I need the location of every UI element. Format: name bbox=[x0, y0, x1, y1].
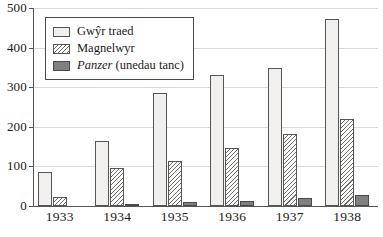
legend-label: Gwŷr traed bbox=[77, 24, 134, 39]
y-tick-label: 500 bbox=[7, 0, 27, 16]
x-tick-label: 1933 bbox=[46, 209, 74, 225]
bar-panzer-1934 bbox=[125, 204, 139, 206]
x-axis-labels: 193319341935193619371938 bbox=[33, 209, 378, 231]
legend-item-artillery: Magnelwyr bbox=[53, 40, 184, 57]
y-tick-label: 200 bbox=[7, 119, 27, 135]
bar-infantry-1936 bbox=[210, 75, 224, 206]
x-tick-label: 1935 bbox=[161, 209, 189, 225]
legend-swatch-panzer bbox=[53, 61, 70, 71]
y-tick-label: 400 bbox=[7, 40, 27, 56]
bar-artillery-1937 bbox=[283, 134, 297, 206]
legend-item-infantry: Gwŷr traed bbox=[53, 23, 184, 40]
bar-panzer-1936 bbox=[240, 201, 254, 206]
bar-infantry-1935 bbox=[153, 93, 167, 206]
y-tick-label: 100 bbox=[7, 158, 27, 174]
chart-legend: Gwŷr traedMagnelwyrPanzer (unedau tanc) bbox=[45, 17, 194, 80]
bar-artillery-1935 bbox=[168, 161, 182, 206]
bar-panzer-1938 bbox=[355, 195, 369, 206]
bar-infantry-1934 bbox=[95, 141, 109, 206]
y-axis-labels: 0100200300400500 bbox=[0, 8, 31, 206]
bar-group-1938 bbox=[321, 8, 379, 206]
x-tick-label: 1938 bbox=[333, 209, 361, 225]
y-tick-label: 300 bbox=[7, 79, 27, 95]
bar-panzer-1935 bbox=[183, 202, 197, 206]
bar-infantry-1938 bbox=[325, 19, 339, 206]
legend-label: Magnelwyr bbox=[77, 41, 135, 56]
legend-swatch-artillery bbox=[53, 44, 70, 54]
x-tick-label: 1934 bbox=[103, 209, 131, 225]
legend-label: Panzer (unedau tanc) bbox=[77, 58, 184, 73]
x-axis-line bbox=[33, 206, 378, 207]
bar-artillery-1938 bbox=[340, 119, 354, 206]
legend-swatch-infantry bbox=[53, 27, 70, 37]
bar-infantry-1933 bbox=[38, 172, 52, 206]
bar-artillery-1936 bbox=[225, 148, 239, 206]
bar-panzer-1937 bbox=[298, 198, 312, 206]
bar-artillery-1934 bbox=[110, 168, 124, 206]
x-tick-label: 1937 bbox=[276, 209, 304, 225]
bar-group-1936 bbox=[206, 8, 264, 206]
bar-artillery-1933 bbox=[53, 197, 67, 206]
legend-item-panzer: Panzer (unedau tanc) bbox=[53, 57, 184, 74]
bar-group-1937 bbox=[263, 8, 321, 206]
x-tick-label: 1936 bbox=[218, 209, 246, 225]
bar-infantry-1937 bbox=[268, 68, 282, 206]
bar-chart: 0100200300400500 19331934193519361937193… bbox=[0, 0, 383, 237]
y-tick-label: 0 bbox=[20, 198, 27, 214]
